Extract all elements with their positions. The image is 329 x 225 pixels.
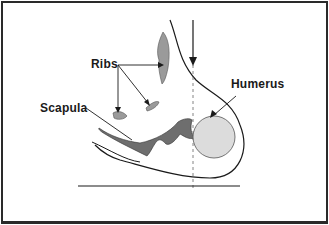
- rib-lower-left: [113, 112, 127, 120]
- scapula-shape: [99, 119, 195, 156]
- incidence-arrow-head: [189, 57, 197, 66]
- humerus-pointer: [214, 96, 236, 115]
- scapula-label: Scapula: [40, 101, 87, 115]
- ribs-pointer-diagonal: [118, 65, 148, 103]
- humerus-head: [193, 116, 235, 158]
- ribs-label: Ribs: [91, 57, 118, 71]
- humerus-label: Humerus: [231, 77, 284, 91]
- rib-upper: [158, 32, 170, 84]
